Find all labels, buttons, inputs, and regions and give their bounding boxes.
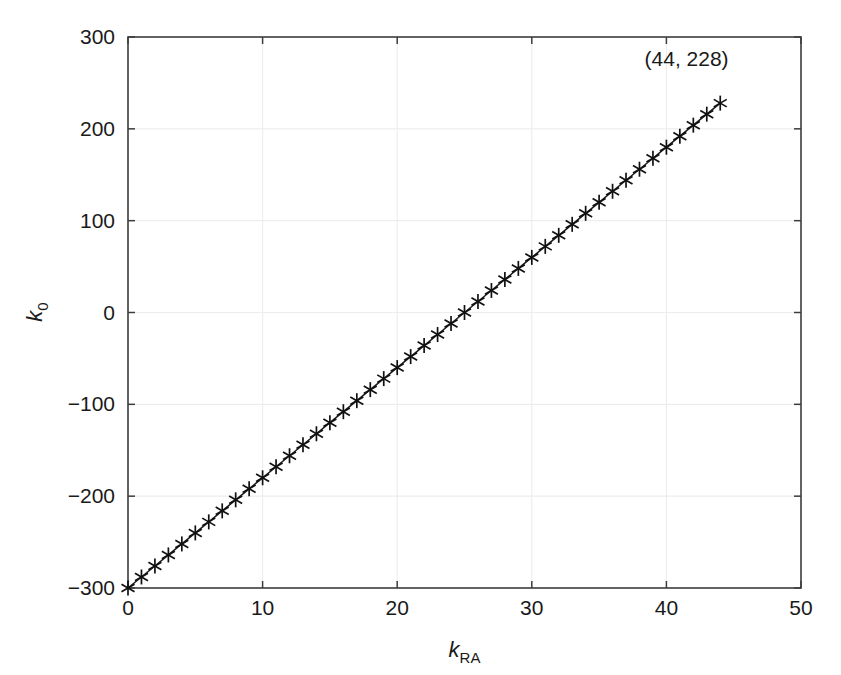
data-point-marker: [135, 569, 148, 584]
y-tick-label: −300: [68, 576, 115, 599]
data-point-marker: [229, 492, 242, 507]
data-point-marker: [445, 316, 458, 331]
data-point-marker: [337, 404, 350, 419]
data-point-marker: [566, 217, 579, 232]
point-annotation-label: (44, 228): [645, 47, 729, 70]
data-point-marker: [485, 283, 498, 298]
data-point-marker: [202, 514, 215, 529]
x-axis-tick-labels: 01020304050: [122, 596, 813, 619]
chart-annotations: (44, 228): [645, 47, 729, 70]
data-point-marker: [552, 228, 565, 243]
figure-canvas: 01020304050 −300−200−1000100200300 (44, …: [0, 0, 841, 675]
y-tick-label: 0: [103, 301, 115, 324]
data-point-marker: [391, 360, 404, 375]
x-tick-label: 10: [251, 596, 274, 619]
data-point-marker: [175, 536, 188, 551]
data-point-marker: [498, 272, 511, 287]
data-point-marker: [296, 437, 309, 452]
data-point-marker: [687, 118, 700, 133]
chart-plot: 01020304050 −300−200−1000100200300 (44, …: [0, 0, 841, 675]
data-point-marker: [216, 503, 229, 518]
data-point-marker: [162, 547, 175, 562]
data-point-marker: [243, 481, 256, 496]
data-point-marker: [189, 525, 202, 540]
data-point-marker: [620, 173, 633, 188]
data-point-marker: [660, 140, 673, 155]
y-tick-label: 300: [80, 25, 115, 48]
x-tick-label: 30: [520, 596, 543, 619]
data-point-marker: [512, 261, 525, 276]
data-point-marker: [525, 250, 538, 265]
y-axis-tick-labels: −300−200−1000100200300: [68, 25, 115, 599]
y-tick-label: 200: [80, 117, 115, 140]
data-point-marker: [310, 426, 323, 441]
y-tick-label: −200: [68, 484, 115, 507]
data-point-marker: [404, 349, 417, 364]
data-point-marker: [714, 96, 727, 111]
data-point-marker: [633, 162, 646, 177]
data-point-marker: [606, 184, 619, 199]
data-point-marker: [270, 459, 283, 474]
x-axis-title: kRA: [449, 637, 481, 666]
y-tick-label: 100: [80, 209, 115, 232]
data-point-marker: [593, 195, 606, 210]
y-tick-label: −100: [68, 392, 115, 415]
x-tick-label: 0: [122, 596, 134, 619]
data-point-marker: [148, 558, 161, 573]
data-point-marker: [673, 129, 686, 144]
data-point-marker: [323, 415, 336, 430]
data-point-marker: [350, 393, 363, 408]
data-point-marker: [646, 151, 659, 166]
data-markers: [122, 96, 727, 596]
data-point-marker: [700, 107, 713, 122]
data-point-marker: [377, 371, 390, 386]
data-point-marker: [431, 327, 444, 342]
x-tick-label: 50: [789, 596, 812, 619]
data-point-marker: [579, 206, 592, 221]
data-point-marker: [418, 338, 431, 353]
data-point-marker: [283, 448, 296, 463]
data-point-marker: [364, 382, 377, 397]
x-tick-label: 20: [386, 596, 409, 619]
data-point-marker: [256, 470, 269, 485]
y-axis-title: k0: [22, 302, 51, 321]
x-tick-label: 40: [655, 596, 678, 619]
data-point-marker: [539, 239, 552, 254]
data-point-marker: [471, 294, 484, 309]
